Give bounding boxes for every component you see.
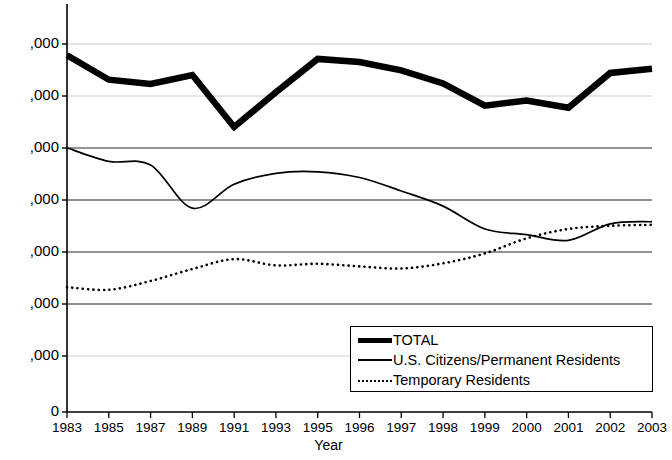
y-axis-tick-label: ,000 (30, 86, 59, 103)
series-line (67, 148, 652, 241)
legend-label-temporary: Temporary Residents (393, 373, 530, 388)
legend-label-total: TOTAL (393, 333, 438, 348)
y-axis-tick-label: ,000 (30, 294, 59, 311)
y-axis-tick-label: 0 (51, 402, 59, 419)
x-axis-tick-label: 2003 (627, 420, 672, 435)
series-lines (67, 55, 652, 290)
y-axis-tick-label: ,000 (30, 34, 59, 51)
legend-item-total: TOTAL (351, 330, 652, 350)
thick-line-swatch (358, 333, 392, 347)
thin-line-swatch (358, 353, 392, 367)
dotted-line-swatch (358, 373, 392, 387)
legend-item-temporary: Temporary Residents (351, 370, 652, 390)
y-axis-tick-label: ,000 (30, 190, 59, 207)
y-axis-tick-label: ,000 (30, 138, 59, 155)
series-line (67, 225, 652, 290)
x-axis-title: Year (0, 437, 657, 453)
legend-label-citizens: U.S. Citizens/Permanent Residents (393, 353, 620, 368)
gridlines (67, 44, 652, 356)
y-axis-tick-label: ,000 (30, 346, 59, 363)
y-axis-tick-label: ,000 (30, 242, 59, 259)
x-axis-ticks (67, 412, 652, 418)
legend-item-citizens: U.S. Citizens/Permanent Residents (351, 350, 652, 370)
series-line (67, 55, 652, 127)
chart-legend: TOTAL U.S. Citizens/Permanent Residents … (350, 326, 653, 392)
